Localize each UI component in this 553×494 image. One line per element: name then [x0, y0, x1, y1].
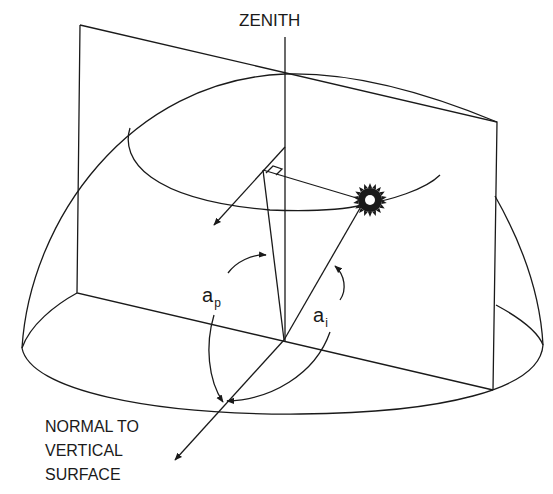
hemisphere-dome-right [495, 196, 543, 345]
angle-ai-subscript: i [325, 316, 328, 330]
angle-arc-ap [228, 255, 266, 273]
horizontal-projection-line [214, 147, 285, 225]
sun-path [128, 128, 440, 211]
zenith-label: ZENITH [239, 12, 300, 29]
angle-ai-label: ai [313, 305, 328, 329]
horizon-ellipse-back-left [22, 293, 77, 348]
hemisphere-dome [22, 74, 497, 348]
angle-ap-subscript: p [214, 296, 221, 310]
normal-to-surface-label: NORMAL TO VERTICAL SURFACE [45, 415, 139, 487]
normal-label-line-3: SURFACE [45, 463, 139, 487]
angle-ai-base: a [313, 304, 324, 326]
projected-ray-line [263, 170, 284, 340]
horizon-ellipse-front [22, 345, 543, 414]
angle-ap-label: ap [202, 285, 221, 309]
angle-arc-ai-lower [227, 332, 330, 401]
horizon-ellipse-back-right [496, 305, 543, 345]
sun-to-plane-line [263, 170, 360, 199]
normal-label-line-2: VERTICAL [45, 439, 139, 463]
angle-arc-ap-lower [209, 315, 223, 402]
normal-label-line-1: NORMAL TO [45, 415, 139, 439]
angle-ap-base: a [202, 284, 213, 306]
angle-arc-ai [335, 266, 344, 300]
surface-normal-line [175, 340, 284, 460]
